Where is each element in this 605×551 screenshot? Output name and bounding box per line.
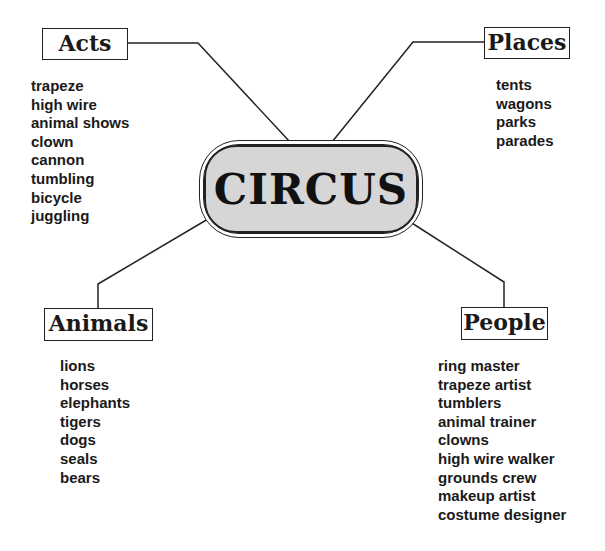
category-box-places: Places xyxy=(484,27,570,59)
list-item: high wire walker xyxy=(438,450,566,469)
category-list-animals: lions horses elephants tigers dogs seals… xyxy=(60,357,130,487)
category-title-acts: Acts xyxy=(58,30,111,56)
list-item: juggling xyxy=(31,207,129,226)
list-item: wagons xyxy=(496,95,554,114)
list-item: seals xyxy=(60,450,130,469)
list-item: horses xyxy=(60,376,130,395)
list-item: bicycle xyxy=(31,189,129,208)
list-item: high wire xyxy=(31,96,129,115)
list-item: trapeze artist xyxy=(438,376,566,395)
category-box-acts: Acts xyxy=(42,28,128,60)
list-item: makeup artist xyxy=(438,487,566,506)
category-title-people: People xyxy=(463,309,545,335)
circus-concept-map: CIRCUS Acts trapeze high wire animal sho… xyxy=(0,0,605,551)
category-title-places: Places xyxy=(488,29,567,55)
list-item: lions xyxy=(60,357,130,376)
list-item: bears xyxy=(60,469,130,488)
list-item: animal shows xyxy=(31,114,129,133)
connector-people xyxy=(404,218,504,308)
list-item: trapeze xyxy=(31,77,129,96)
center-node: CIRCUS xyxy=(199,140,423,238)
connector-animals xyxy=(98,219,208,308)
list-item: tents xyxy=(496,76,554,95)
list-item: tumbling xyxy=(31,170,129,189)
connector-places xyxy=(332,42,484,142)
connector-acts xyxy=(128,43,290,142)
list-item: clowns xyxy=(438,431,566,450)
list-item: costume designer xyxy=(438,506,566,525)
center-title: CIRCUS xyxy=(214,165,408,214)
list-item: cannon xyxy=(31,151,129,170)
list-item: animal trainer xyxy=(438,413,566,432)
list-item: dogs xyxy=(60,431,130,450)
category-list-acts: trapeze high wire animal shows clown can… xyxy=(31,77,129,226)
category-list-places: tents wagons parks parades xyxy=(496,76,554,150)
list-item: parades xyxy=(496,132,554,151)
list-item: elephants xyxy=(60,394,130,413)
category-box-people: People xyxy=(461,307,548,340)
list-item: tumblers xyxy=(438,394,566,413)
list-item: clown xyxy=(31,133,129,152)
list-item: grounds crew xyxy=(438,469,566,488)
list-item: ring master xyxy=(438,357,566,376)
category-list-people: ring master trapeze artist tumblers anim… xyxy=(438,357,566,524)
list-item: parks xyxy=(496,113,554,132)
list-item: tigers xyxy=(60,413,130,432)
category-box-animals: Animals xyxy=(44,308,153,341)
category-title-animals: Animals xyxy=(49,310,149,336)
center-node-inner: CIRCUS xyxy=(204,145,418,233)
